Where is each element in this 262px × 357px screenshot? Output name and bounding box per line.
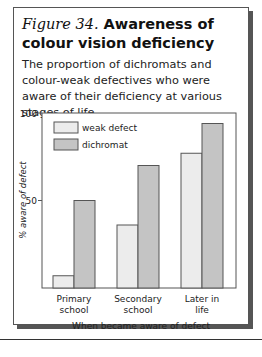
- bar-weak-defect: [53, 276, 74, 288]
- bar-weak-defect: [181, 153, 202, 288]
- y-axis-label: % aware of defect: [18, 161, 28, 239]
- x-axis-label: When became aware of defect: [72, 321, 210, 331]
- y-tick-label: 100: [20, 109, 37, 119]
- x-tick-label: Primary: [57, 294, 92, 304]
- x-tick-label: life: [195, 305, 209, 315]
- legend-swatch: [54, 122, 78, 133]
- legend-label: weak defect: [82, 123, 137, 133]
- x-tick-label: school: [60, 305, 89, 315]
- bar-dichromat: [74, 201, 95, 289]
- bar-dichromat: [202, 124, 223, 289]
- bar-weak-defect: [117, 225, 138, 288]
- x-tick-label: school: [124, 305, 153, 315]
- divider: [0, 339, 262, 340]
- bar-dichromat: [138, 166, 159, 289]
- bar-chart: 50100PrimaryschoolSecondaryschoolLater i…: [0, 0, 262, 357]
- legend-swatch: [54, 139, 78, 150]
- x-tick-label: Later in: [185, 294, 219, 304]
- legend-label: dichromat: [82, 140, 128, 150]
- x-tick-label: Secondary: [114, 294, 162, 304]
